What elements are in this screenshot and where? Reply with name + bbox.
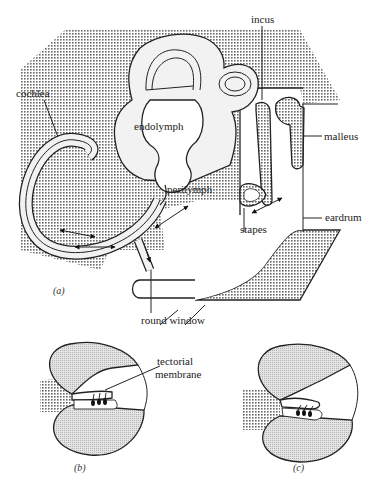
lower-lobe-c — [263, 416, 353, 462]
label-tectorial: tectorial — [157, 355, 193, 367]
label-membrane-text: membrane — [155, 368, 202, 380]
lower-lobe-b — [54, 405, 144, 455]
label-incus: incus — [251, 13, 274, 25]
panel-b: tectorial membrane (b) — [40, 342, 202, 474]
label-eardrum: eardrum — [325, 211, 362, 223]
label-perilymph: perilymph — [167, 183, 213, 195]
upper-lobe-c — [258, 344, 350, 400]
label-stapes: stapes — [240, 223, 267, 235]
panel-a-tag: (a) — [53, 285, 65, 297]
label-malleus: malleus — [324, 130, 358, 142]
label-endolymph: endolymph — [134, 120, 184, 132]
label-round-window: round window — [141, 314, 205, 326]
panel-c-tag: (c) — [293, 462, 305, 474]
panel-c: (c) — [243, 344, 358, 474]
upper-lobe-b — [50, 342, 138, 394]
panel-b-tag: (b) — [74, 462, 86, 474]
label-cochlea: cochlea — [16, 87, 50, 99]
ear-diagram: cochlea endolymph perilymph incus malleu… — [0, 0, 381, 489]
panel-a: cochlea endolymph perilymph incus malleu… — [16, 13, 362, 326]
